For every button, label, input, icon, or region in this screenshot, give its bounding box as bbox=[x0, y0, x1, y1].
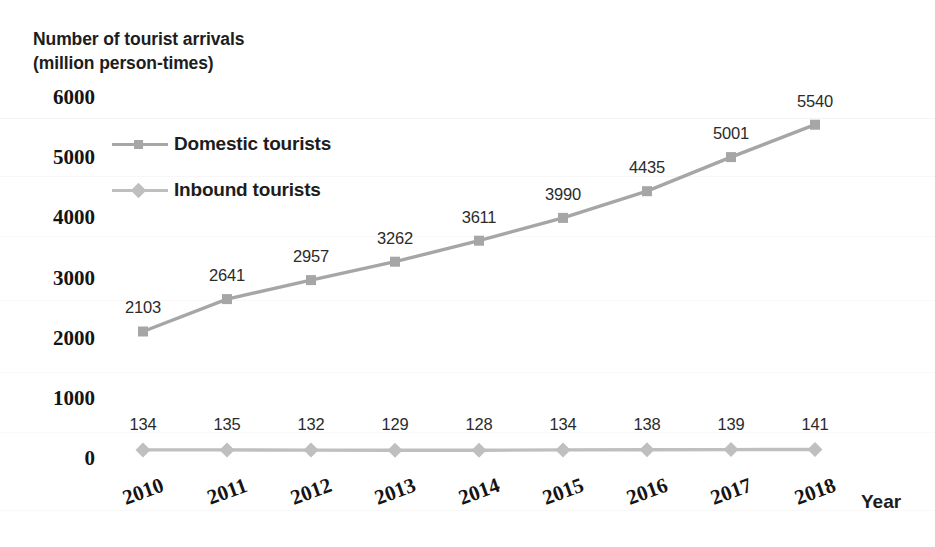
x-axis-tick-label: 2018 bbox=[791, 473, 839, 511]
x-axis-tick-label: 2016 bbox=[623, 473, 671, 511]
x-axis-tick-label: 2012 bbox=[287, 473, 335, 511]
x-axis-title: Year bbox=[861, 491, 901, 513]
x-axis-tick-label: 2015 bbox=[539, 473, 587, 511]
x-axis-tick-label: 2011 bbox=[204, 473, 251, 510]
x-axis-tick-label: 2014 bbox=[455, 473, 503, 511]
x-axis-tick-label: 2013 bbox=[371, 473, 419, 511]
x-axis-tick-label: 2017 bbox=[707, 473, 755, 511]
x-axis-tick-label: 2010 bbox=[119, 473, 167, 511]
x-axis: 201020112012201320142015201620172018 bbox=[0, 0, 935, 547]
tourist-arrivals-line-chart: Number of tourist arrivals (million pers… bbox=[0, 0, 935, 547]
